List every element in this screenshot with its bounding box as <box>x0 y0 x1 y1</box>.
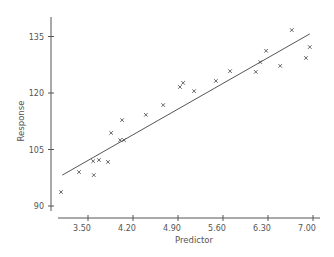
x-tick-label: 7.00 <box>298 224 316 233</box>
fit-line <box>62 34 310 175</box>
data-point <box>214 79 218 83</box>
x-axis-label: Predictor <box>175 235 213 245</box>
y-axis: 90105120135 <box>29 17 54 211</box>
data-point <box>178 85 182 89</box>
data-point <box>77 170 81 174</box>
data-point <box>304 56 308 60</box>
data-point <box>192 89 196 93</box>
data-point <box>106 160 110 164</box>
x-tick-label: 3.50 <box>73 224 91 233</box>
data-point <box>258 60 262 64</box>
x-tick-label: 5.60 <box>208 224 226 233</box>
y-tick-label: 90 <box>34 202 44 211</box>
data-point <box>254 70 258 74</box>
data-point <box>97 158 101 162</box>
data-point <box>91 159 95 163</box>
regression-line <box>62 34 310 175</box>
data-point <box>59 190 63 194</box>
y-tick-label: 135 <box>29 33 44 42</box>
data-point <box>278 64 282 68</box>
data-point <box>92 173 96 177</box>
data-point <box>264 49 268 53</box>
x-tick-label: 4.90 <box>163 224 181 233</box>
data-point <box>118 138 122 142</box>
data-point <box>228 69 232 73</box>
data-point <box>144 113 148 117</box>
data-point <box>181 81 185 85</box>
data-point <box>308 45 312 49</box>
x-axis: 3.504.204.905.606.307.00 <box>58 215 320 233</box>
data-point <box>120 118 124 122</box>
y-tick-label: 120 <box>29 89 44 98</box>
y-tick-label: 105 <box>29 146 44 155</box>
data-points <box>59 28 311 194</box>
x-tick-label: 6.30 <box>253 224 271 233</box>
scatter-chart: 90105120135 3.504.204.905.606.307.00 Pre… <box>0 0 334 257</box>
data-point <box>109 131 113 135</box>
data-point <box>290 28 294 32</box>
y-axis-label: Response <box>16 101 26 142</box>
x-tick-label: 4.20 <box>118 224 136 233</box>
data-point <box>161 103 165 107</box>
